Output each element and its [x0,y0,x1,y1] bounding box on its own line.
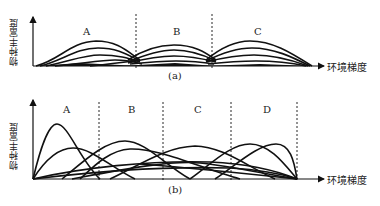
panel-a [33,14,324,70]
panel-a-zone-b: B [173,26,180,37]
panel-b-zone-c: C [194,104,202,115]
panel-b-caption: (b) [168,184,182,195]
panel-a-baseline-wedges [36,63,312,66]
panel-a-curves-b [128,45,216,64]
panel-b-zone-b: B [128,104,135,115]
panel-a-y-axis-label: 物种丰富度 [6,18,19,66]
panel-a-caption: (a) [168,70,182,81]
panel-a-zone-a: A [83,26,90,37]
panel-b-y-axis-label: 物种丰富度 [6,122,19,170]
panel-a-x-axis-label: 环境梯度 [327,59,367,74]
panel-b-zone-d: D [263,104,271,115]
panel-a-zone-c: C [254,26,262,37]
panel-b-species-curves [33,124,297,179]
panel-a-curves-c [206,41,312,66]
diagram-canvas [0,0,380,206]
panel-b-zone-a: A [63,104,70,115]
panel-b-x-axis-label: 环境梯度 [327,172,367,187]
panel-a-curves-a [36,41,142,66]
panel-b [33,100,324,182]
